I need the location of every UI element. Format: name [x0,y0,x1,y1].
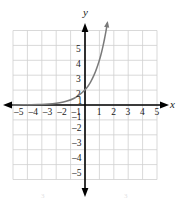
x-tick-label--5: –5 [14,108,24,118]
x-tick-label-5: 5 [154,108,159,118]
y-tick-label--4: –4 [72,154,82,164]
page-bleed-artifact-right: 3 [124,193,128,200]
y-axis-top-arrowhead [82,23,89,32]
y-tick-label-3: 3 [76,75,81,85]
y-tick-label-1: 1 [78,97,83,107]
x-axis-right-arrowhead [160,102,169,109]
x-tick-label--4: –4 [28,108,38,118]
page-bleed-artifact-left: 3 [41,193,45,200]
y-tick-label-5: 5 [76,45,81,55]
x-tick-label--3: –3 [43,108,53,118]
y-axis-label: y [83,7,88,18]
coordinate-plane-svg [0,0,180,201]
x-tick-label-4: 4 [140,108,145,118]
x-tick-label-3: 3 [126,108,131,118]
y-axis-bottom-arrowhead [82,188,89,197]
x-axis-left-arrowhead [3,102,12,109]
y-tick-label--5: –5 [72,169,82,179]
x-tick-label-2: 2 [111,108,116,118]
x-tick-label--2: –2 [57,108,67,118]
y-tick-label-4: 4 [76,60,81,70]
y-tick-label--1: –1 [72,113,82,123]
exponential-function-graph: –5 –4 –3 –2 –1 1 2 3 4 5 5 4 3 2 1 –1 –2… [0,0,180,201]
x-axis-label: x [170,99,175,110]
y-tick-label--2: –2 [72,124,82,134]
y-axis [82,23,89,197]
curve-arrowhead [104,21,109,28]
y-tick-label--3: –3 [72,139,82,149]
x-tick-label-1: 1 [97,108,102,118]
